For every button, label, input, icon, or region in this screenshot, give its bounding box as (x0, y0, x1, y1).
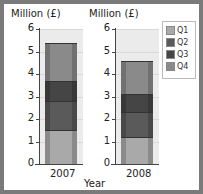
y-tick-label: 2 (98, 112, 110, 123)
y-tick-label: 1 (22, 135, 34, 146)
y-tick-label: 0 (98, 157, 110, 168)
legend: Q1 Q2 Q3 Q4 (162, 21, 196, 79)
y-tick-label: 5 (22, 45, 34, 56)
bar-segment-q1 (45, 130, 77, 164)
y-tick-label: 4 (98, 67, 110, 78)
y-tick-label: 3 (98, 90, 110, 101)
bar-segment-q3 (121, 94, 153, 112)
x-tick-2008: 2008 (126, 168, 151, 179)
gridline (40, 29, 83, 30)
x-tick-2007: 2007 (50, 168, 75, 179)
bar-segment-q3 (45, 81, 77, 101)
y-tick-label: 4 (22, 67, 34, 78)
legend-item-q2: Q2 (166, 38, 188, 47)
y-tick-label: 2 (22, 112, 34, 123)
x-axis-left (35, 164, 83, 165)
gridline (116, 52, 159, 53)
bar-segment-q2 (45, 101, 77, 130)
y-axis-right (115, 28, 116, 165)
y-axis-left (39, 28, 40, 165)
y-tick-label: 0 (22, 157, 34, 168)
y-axis-label-left: Million (£) (11, 8, 61, 19)
gridline (116, 29, 159, 30)
bar-segment-q2 (121, 112, 153, 137)
y-axis-label-right: Million (£) (89, 8, 139, 19)
legend-item-q4: Q4 (166, 62, 188, 71)
y-tick-label: 3 (22, 90, 34, 101)
y-tick-label: 1 (98, 135, 110, 146)
y-tick-label: 6 (98, 22, 110, 33)
y-tick-label: 5 (98, 45, 110, 56)
bar-segment-q4 (45, 43, 77, 81)
y-tick-label: 6 (22, 22, 34, 33)
legend-item-q3: Q3 (166, 50, 188, 59)
x-axis-label: Year (84, 178, 105, 189)
legend-item-q1: Q1 (166, 26, 188, 35)
bar-segment-q4 (121, 61, 153, 95)
bar-segment-q1 (121, 137, 153, 164)
x-axis-right (111, 164, 159, 165)
